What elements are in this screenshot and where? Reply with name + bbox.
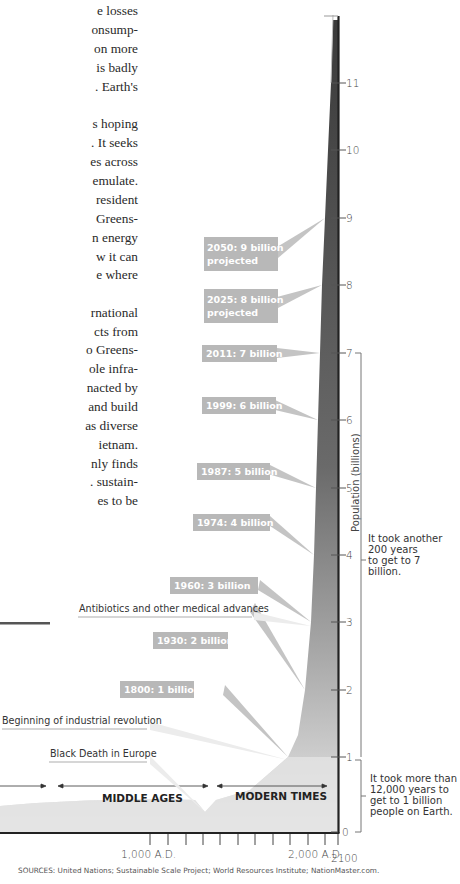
note-black-death: Black Death in Europe: [49, 748, 157, 762]
y-tick-label-1: 1: [346, 751, 353, 763]
note-industrial-revolution: Beginning of industrial revolution: [2, 715, 162, 729]
callout-2025-line1: 2025: 8 billion: [207, 294, 284, 305]
era-modern-times: MODERN TIMES: [235, 790, 327, 802]
population-chart: 0 1 2 3 4 5 6 7 8 9 10 11 1,000 A.D. 2,0…: [0, 0, 460, 884]
note-black-death-text: Black Death in Europe: [50, 748, 157, 759]
bracket-one-billion: [355, 760, 366, 832]
y-tick-label-2: 2: [346, 684, 353, 696]
era-middle-ages: MIDDLE AGES: [102, 792, 183, 804]
y-tick-label-0: 0: [342, 826, 349, 838]
callout-1987: 1987: 5 billion: [197, 463, 278, 480]
y-tick-label-7: 7: [346, 347, 353, 359]
callout-2025-line2: projected: [207, 307, 258, 318]
callout-1974: 1974: 4 billion: [193, 514, 274, 531]
callout-2011-text: 2011: 7 billion: [206, 348, 283, 359]
callout-1930: 1930: 2 billion: [153, 632, 234, 649]
callout-1800: 1800: 1 billion: [120, 681, 201, 698]
section-divider: [0, 622, 50, 625]
note-antibiotics: Antibiotics and other medical advances: [78, 603, 269, 617]
callout-1974-text: 1974: 4 billion: [197, 517, 274, 528]
callout-1960-text: 1960: 3 billion: [174, 580, 251, 591]
y-tick-label-9: 9: [346, 212, 353, 224]
y-tick-label-6: 6: [346, 414, 353, 426]
callout-2011: 2011: 7 billion: [202, 345, 283, 362]
callout-1800-text: 1800: 1 billion: [124, 684, 201, 695]
bracket-seven-billion: [355, 353, 366, 757]
x-label-1000ad: 1,000 A.D.: [121, 848, 176, 860]
y-tick-label-8: 8: [346, 279, 353, 291]
x-label-2100: 2100: [331, 852, 358, 864]
population-area: [0, 20, 338, 832]
y-tick-label-4: 4: [346, 549, 353, 561]
callout-1960: 1960: 3 billion: [170, 577, 258, 594]
callout-2050-line1: 2050: 9 billion: [207, 242, 284, 253]
note-antibiotics-text: Antibiotics and other medical advances: [79, 603, 269, 614]
y-axis-title: Population (billions): [350, 433, 361, 532]
side-note-one-billion: It took more than 12,000 years to get to…: [370, 773, 460, 817]
note-industrial-text: Beginning of industrial revolution: [2, 715, 162, 726]
callout-1987-text: 1987: 5 billion: [201, 466, 278, 477]
callout-2025: 2025: 8 billion projected: [204, 289, 284, 323]
side-note-seven-billion: It took another 200 years to get to 7 bi…: [368, 533, 445, 577]
y-tick-label-10: 10: [346, 144, 359, 156]
x-ticks: [150, 834, 338, 845]
callout-2050-line2: projected: [207, 255, 258, 266]
callout-1999-text: 1999: 6 billion: [206, 400, 283, 411]
source-credit: SOURCES: United Nations; Sustainable Sca…: [18, 866, 379, 875]
y-tick-label-3: 3: [346, 616, 353, 628]
callout-1999: 1999: 6 billion: [202, 397, 283, 414]
callout-2050: 2050: 9 billion projected: [204, 237, 284, 271]
y-tick-label-11: 11: [346, 77, 359, 89]
callout-1930-text: 1930: 2 billion: [157, 635, 234, 646]
